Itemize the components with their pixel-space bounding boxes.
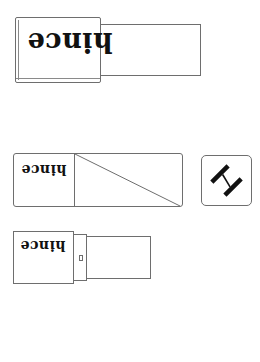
hince-h-monogram-icon	[201, 155, 252, 206]
lipstick-box: hince	[13, 153, 183, 207]
lipstick-closed: hince	[15, 17, 201, 83]
brand-logo-text: hince	[21, 162, 67, 178]
brand-logo-text: hince	[27, 27, 113, 57]
lipstick-body	[100, 24, 201, 76]
lipstick-collar	[73, 234, 87, 281]
cap-inner-edge	[18, 20, 19, 80]
cap-bottom-edge	[16, 78, 100, 79]
brand-logo-text: hince	[20, 238, 66, 254]
lipstick-open-cap: hince	[13, 231, 151, 284]
lipstick-body	[86, 236, 151, 279]
collar-window	[79, 255, 83, 261]
logo-tile	[201, 155, 252, 206]
